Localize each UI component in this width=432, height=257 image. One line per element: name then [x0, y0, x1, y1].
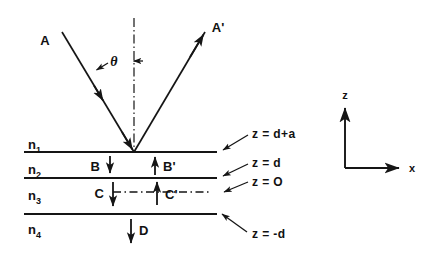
label-wave-B: B [91, 159, 100, 174]
label-reflected-ray-A-prime: A' [212, 20, 224, 35]
incident-ray-A-arrowhead [94, 86, 103, 101]
label-boundary-z-d: z = d [252, 156, 281, 170]
label-incident-ray-A: A [40, 33, 50, 48]
leader-z-minus-d [222, 214, 247, 232]
label-boundary-z-minus-d: z = -d [252, 227, 285, 241]
incident-ray-A-tip-arrowhead [122, 132, 132, 150]
leader-z-d-plus-a [223, 135, 248, 150]
label-boundary-z-zero: z = O [252, 175, 283, 189]
label-wave-B-prime: B' [163, 159, 175, 174]
reflected-ray-A-prime-arrowhead [190, 35, 204, 58]
diagram-canvas: A A' θ n1 n2 n3 n4 B B' C C' D z = d+a z… [0, 0, 432, 257]
label-medium-n4: n4 [28, 222, 41, 240]
leader-z-d [223, 164, 248, 176]
label-wave-C-prime: C' [165, 187, 177, 202]
optics-multilayer-diagram: A A' θ n1 n2 n3 n4 B B' C C' D z = d+a z… [0, 0, 432, 257]
label-wave-D: D [139, 223, 148, 238]
label-x-axis: x [409, 162, 416, 174]
label-z-axis: z [342, 89, 348, 101]
label-medium-n3: n3 [28, 188, 41, 206]
theta-pointer-left [97, 63, 109, 70]
label-wave-C: C [95, 186, 105, 201]
leader-z-zero [224, 182, 248, 192]
label-angle-theta: θ [110, 54, 118, 69]
label-boundary-z-d-plus-a: z = d+a [252, 127, 296, 141]
